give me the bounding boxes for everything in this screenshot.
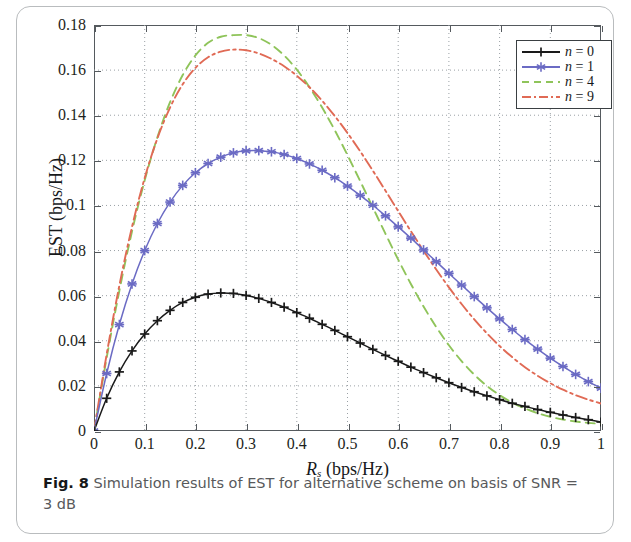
x-tick-label: 0.9: [540, 435, 560, 453]
x-tick-mark: [501, 26, 502, 32]
x-tick-mark: [146, 424, 147, 430]
y-tick-mark: [95, 116, 101, 117]
y-tick-mark: [95, 71, 101, 72]
x-tick-label: 0.2: [185, 435, 205, 453]
y-tick-mark: [594, 206, 600, 207]
x-tick-mark: [95, 424, 96, 430]
legend-sample-line: [521, 75, 561, 89]
y-tick-mark: [594, 432, 600, 433]
y-tick-mark: [594, 342, 600, 343]
legend-label: n = 1: [565, 59, 594, 75]
y-tick-mark: [594, 161, 600, 162]
series-n1: [94, 146, 601, 431]
x-tick-mark: [501, 424, 502, 430]
x-tick-mark: [551, 26, 552, 32]
y-axis-title: EST (bps/Hz): [46, 93, 67, 323]
y-tick-mark: [594, 116, 600, 117]
x-tick-label: 0.4: [287, 435, 307, 453]
x-tick-label: 0.3: [236, 435, 256, 453]
legend-item-n0[interactable]: n = 0: [521, 44, 607, 59]
y-tick-mark: [594, 387, 600, 388]
legend-label: n = 9: [565, 89, 594, 105]
x-tick-mark: [298, 424, 299, 430]
y-tick-mark: [95, 432, 101, 433]
chart-legend: n = 0n = 1n = 4n = 9: [516, 40, 612, 109]
x-tick-label: 0: [90, 435, 98, 453]
y-tick-mark: [95, 161, 101, 162]
x-tick-label: 0.1: [135, 435, 155, 453]
y-tick-label: 0.02: [17, 377, 86, 395]
x-tick-mark: [349, 424, 350, 430]
figure-caption: Fig. 8 Simulation results of EST for alt…: [43, 473, 591, 514]
x-tick-mark: [450, 26, 451, 32]
x-tick-mark: [196, 26, 197, 32]
x-tick-mark: [551, 424, 552, 430]
x-tick-label: 0.6: [388, 435, 408, 453]
x-tick-mark: [602, 26, 603, 32]
legend-sample-line: [521, 45, 561, 59]
legend-label: n = 4: [565, 74, 594, 90]
legend-item-n4[interactable]: n = 4: [521, 74, 607, 89]
x-tick-mark: [602, 424, 603, 430]
y-tick-mark: [95, 252, 101, 253]
y-tick-mark: [594, 252, 600, 253]
x-tick-mark: [450, 424, 451, 430]
legend-sample-line: [521, 60, 561, 74]
figure-caption-label: Fig. 8: [43, 475, 89, 491]
figure-caption-text: Simulation results of EST for alternativ…: [43, 475, 578, 512]
y-tick-label: 0: [17, 422, 86, 440]
y-tick-mark: [95, 342, 101, 343]
x-tick-mark: [196, 424, 197, 430]
x-tick-mark: [146, 26, 147, 32]
y-tick-mark: [95, 26, 101, 27]
y-tick-mark: [594, 297, 600, 298]
x-tick-mark: [399, 424, 400, 430]
legend-sample-line: [521, 90, 561, 104]
x-tick-label: 1: [597, 435, 605, 453]
x-tick-mark: [349, 26, 350, 32]
x-tick-mark: [247, 424, 248, 430]
series-n0: [94, 288, 601, 431]
y-tick-label: 0.16: [17, 61, 86, 79]
x-tick-mark: [247, 26, 248, 32]
figure-card: n = 0n = 1n = 4n = 9 00.10.20.30.40.50.6…: [16, 6, 614, 534]
x-tick-label: 0.5: [338, 435, 358, 453]
y-tick-label: 0.04: [17, 332, 86, 350]
legend-item-n1[interactable]: n = 1: [521, 59, 607, 74]
chart-plot-area: n = 0n = 1n = 4n = 9 00.10.20.30.40.50.6…: [17, 7, 615, 459]
y-tick-mark: [95, 387, 101, 388]
y-tick-mark: [95, 297, 101, 298]
x-tick-mark: [399, 26, 400, 32]
x-tick-label: 0.7: [439, 435, 459, 453]
y-tick-mark: [594, 26, 600, 27]
x-tick-label: 0.8: [490, 435, 510, 453]
axes-frame: n = 0n = 1n = 4n = 9: [94, 25, 601, 431]
y-tick-label: 0.18: [17, 16, 86, 34]
x-tick-mark: [298, 26, 299, 32]
legend-label: n = 0: [565, 44, 594, 60]
legend-item-n9[interactable]: n = 9: [521, 89, 607, 104]
y-tick-mark: [95, 206, 101, 207]
